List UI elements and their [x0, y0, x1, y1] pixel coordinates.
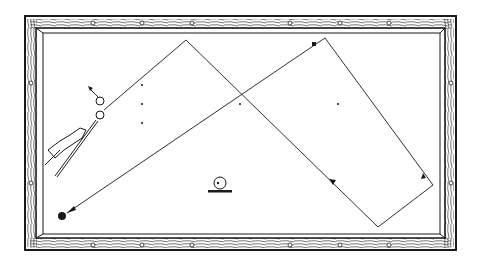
square-marker-icon: [312, 42, 316, 46]
cue-ball: [96, 111, 104, 119]
object-ball: [96, 97, 104, 105]
target-ball: [58, 212, 66, 220]
table-illustration: [0, 0, 481, 266]
